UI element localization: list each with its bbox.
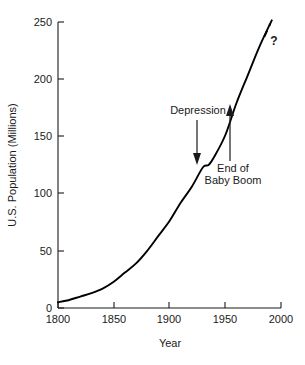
chart-svg: U.S. Population (Millions) 250 200 150 1… (0, 0, 305, 365)
annotation-arrowhead-down-icon (193, 153, 201, 165)
x-tick-label-1900: 1900 (157, 313, 181, 325)
y-tick-label-50: 50 (40, 245, 52, 257)
y-tick-label-150: 150 (34, 130, 52, 142)
x-tick-label-1800: 1800 (46, 313, 70, 325)
x-tick-label-2000: 2000 (269, 313, 293, 325)
x-tick-label-1850: 1850 (102, 313, 126, 325)
y-axis-title: U.S. Population (Millions) (6, 103, 18, 227)
y-tick-label-200: 200 (34, 73, 52, 85)
annotation-question-mark: ? (270, 34, 277, 48)
x-tick-label-1950: 1950 (213, 313, 237, 325)
population-chart-figure: U.S. Population (Millions) 250 200 150 1… (0, 0, 305, 365)
annotation-label-baby-boom: Baby Boom (205, 174, 262, 186)
x-axis-title: Year (159, 337, 182, 349)
annotation-label-depression: Depression (170, 104, 226, 116)
y-tick-label-100: 100 (34, 187, 52, 199)
y-tick-label-250: 250 (34, 16, 52, 28)
annotation-label-end-of: End of (217, 162, 250, 174)
